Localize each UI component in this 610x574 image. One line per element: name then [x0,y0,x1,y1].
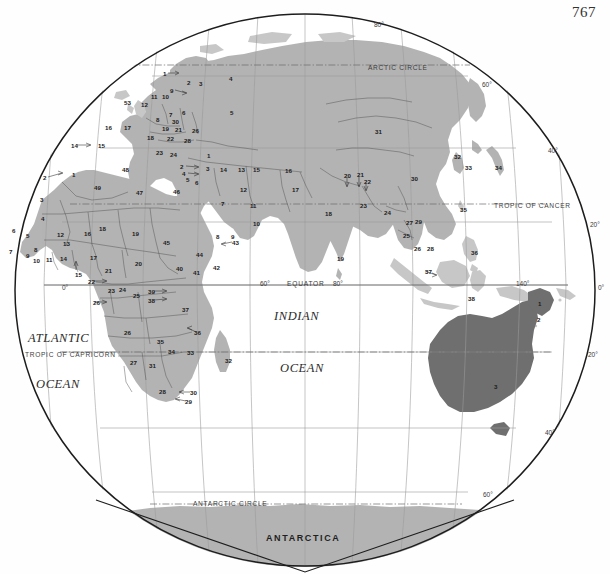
country-number-21-17: 21 [175,127,182,133]
country-number-20-70: 20 [135,261,142,267]
country-number-11-6: 11 [151,94,158,100]
country-number-17-15: 17 [124,125,131,131]
country-number-18-67: 18 [99,226,106,232]
antarctic-circle-label: ANTARCTIC CIRCLE [193,501,267,508]
country-number-24-23: 24 [170,152,177,158]
graticule-label-9: 60° [260,281,270,288]
country-number-8-12: 8 [156,117,159,123]
country-number-23-22: 23 [156,150,163,156]
country-number-18-101: 18 [325,211,332,217]
graticule-label-2: 40° [548,148,558,155]
arctic-circle-label: ARCTIC CIRCLE [368,65,428,72]
country-number-34-86: 34 [168,349,175,355]
country-number-30-91: 30 [190,390,197,396]
country-number-42-43: 42 [213,265,220,271]
country-number-12-61: 12 [57,232,64,238]
country-number-10-5: 10 [162,94,169,100]
country-number-37-112: 37 [425,269,432,275]
country-number-36-82: 36 [194,330,201,336]
country-number-19-110: 19 [337,256,344,262]
country-number-23-102: 23 [360,203,367,209]
country-number-3-52: 3 [40,197,43,203]
country-number-7-56: 7 [9,249,12,255]
country-number-26-108: 26 [414,246,421,252]
country-number-49-49: 49 [94,185,101,191]
country-number-14-63: 14 [60,256,67,262]
country-number-4-3: 4 [229,76,232,82]
country-number-30-97: 30 [411,176,418,182]
country-number-16-14: 16 [105,125,112,131]
country-number-25-79: 25 [133,293,140,299]
graticule-label-5: 20° [588,352,598,359]
country-number-1-24: 1 [207,153,210,159]
country-number-20-94: 20 [344,173,351,179]
country-number-17-35: 17 [292,187,299,193]
graticule-label-0: 80° [374,22,384,29]
country-number-19-68: 19 [132,231,139,237]
country-number-35-104: 35 [460,207,467,213]
antarctica-label: ANTARCTICA [266,534,340,543]
country-number-5-9: 5 [230,110,233,116]
country-number-9-58: 9 [26,253,29,259]
tropic-of-capricorn-label: TROPIC OF CAPRICORN [25,352,116,359]
ocean-label-indian: INDIAN [274,310,319,323]
country-number-27-105: 27 [406,220,413,226]
country-number-24-76: 24 [119,287,126,293]
country-number-11-60: 11 [46,257,53,263]
country-number-2-46: 2 [43,175,46,181]
country-number-46-51: 46 [173,189,180,195]
country-number-45-69: 45 [163,240,170,246]
country-number-29-92: 29 [185,399,192,405]
graticule-label-7: 60° [483,492,493,499]
country-number-41-73: 41 [193,270,200,276]
country-number-3-116: 3 [494,384,497,390]
country-number-2-115: 2 [537,317,540,323]
graticule-label-8: 0° [62,285,68,292]
country-number-7-36: 7 [221,201,224,207]
graticule-label-1: 60° [482,82,492,89]
country-number-23-75: 23 [108,288,115,294]
graticule-label-11: 140° [516,281,529,288]
country-number-26-80: 26 [93,300,100,306]
country-number-3-26: 3 [206,166,209,172]
country-number-22-20: 22 [167,136,174,142]
country-number-14-30: 14 [220,167,227,173]
country-number-16-65: 16 [84,231,91,237]
country-number-10-38: 10 [253,221,260,227]
country-number-9-4: 9 [170,88,173,94]
equator-label: EQUATOR [287,281,325,288]
ocean-label-atlantic: ATLANTIC [28,332,89,345]
country-number-8-39: 8 [216,234,219,240]
country-number-14-44: 14 [71,143,78,149]
atlas-page: 767 [0,0,610,574]
country-number-18-19: 18 [147,135,154,141]
tropic-of-cancer-label: TROPIC OF CANCER [494,203,571,210]
country-number-22-74: 22 [88,279,95,285]
country-number-44-42: 44 [196,252,203,258]
country-number-33-99: 33 [465,165,472,171]
country-number-25-107: 25 [403,233,410,239]
country-number-13-31: 13 [238,167,245,173]
country-number-26-18: 26 [192,128,199,134]
country-number-6-10: 6 [182,110,185,116]
country-number-36-111: 36 [471,250,478,256]
country-number-13-62: 13 [63,241,70,247]
country-number-43-41: 43 [232,240,239,246]
country-number-19-16: 19 [162,126,169,132]
country-number-15-32: 15 [253,167,260,173]
country-number-30-13: 30 [172,119,179,125]
country-number-31-88: 31 [149,363,156,369]
country-number-12-7: 12 [141,102,148,108]
country-number-17-66: 17 [90,255,97,261]
country-number-33-85: 33 [187,350,194,356]
country-number-5-28: 5 [186,177,189,183]
country-number-28-109: 28 [427,246,434,252]
country-number-22-96: 22 [364,179,371,185]
country-number-16-33: 16 [285,168,292,174]
country-number-4-27: 4 [182,171,185,177]
country-number-1-47: 1 [72,172,75,178]
country-number-6-29: 6 [195,180,198,186]
country-number-39-77: 39 [148,289,155,295]
country-number-1-114: 1 [538,301,541,307]
country-number-26-83: 26 [124,330,131,336]
